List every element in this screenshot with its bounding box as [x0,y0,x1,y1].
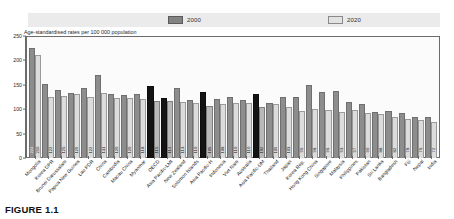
bar-value-label: 96 [326,148,330,153]
bar-group: 95 [292,36,305,158]
bar-2020: 131 [101,93,107,158]
x-tick-mark [167,156,168,159]
bar-2020: 113 [180,102,186,158]
bar-value-label: 210 [36,146,40,153]
bar-2020: 90 [365,113,371,158]
x-tick-mark [312,156,313,159]
bar-value-label: 90 [366,148,370,153]
legend-label-2000: 2000 [187,17,201,23]
x-tick-mark [326,156,327,159]
x-tick-mark [88,156,89,159]
bar-value-label: 110 [194,147,198,154]
bar-group: 72 [425,36,438,158]
bar-group: 90 [358,36,371,158]
bar-value-label: 110 [234,147,238,154]
bar-value-label: 82 [392,148,396,153]
bar-value-label: 125 [62,146,66,153]
bar-2020: 103 [286,107,292,158]
bar-2020: 93 [339,112,345,158]
bar-2020: 95 [299,111,305,158]
bar-value-label: 120 [128,146,132,153]
bar-2020: 88 [378,114,384,158]
bar-value-label: 129 [75,146,79,153]
x-tick-mark [405,156,406,159]
bar-value-label: 93 [340,148,344,153]
x-axis-labels: MongoliaKorea DPRBrunei DarussalamPapua … [26,159,440,201]
bar-group: 105 [200,36,213,158]
bar-2020: 210 [35,55,41,158]
chart-legend: 2000 2020 [28,13,440,27]
bar-value-label: 224 [29,146,33,153]
bar-2020: 118 [140,99,146,158]
x-tick-mark [378,156,379,159]
x-tick-mark [273,156,274,159]
x-tick-mark [365,156,366,159]
bar-group: 224210 [28,36,41,158]
bar-group: 103 [279,36,292,158]
bar-group: 93 [332,36,345,158]
bar-group: 113 [173,36,186,158]
bar-group: 131 [94,36,107,158]
bar-2020: 97 [352,110,358,158]
x-tick-label: Nepal [412,159,425,172]
bar-value-label: 102 [260,146,264,153]
y-axis-ticks: 050100150200250 [0,36,26,158]
bar-group: 76 [411,36,424,158]
x-tick-mark [392,156,393,159]
y-tick-label: 150 [13,82,22,88]
bar-2020: 108 [220,104,226,158]
x-tick-mark [114,156,115,159]
x-tick-mark [220,156,221,159]
bar-value-label: 109 [273,146,277,153]
bar-series-container: 2242101221251291221311201201181151141131… [26,36,440,158]
bar-group: 115 [147,36,160,158]
bar-value-label: 122 [88,146,92,153]
bar-value-label: 113 [181,147,185,154]
x-tick-mark [418,156,419,159]
legend-item-2000: 2000 [168,16,201,24]
x-tick-mark [127,156,128,159]
bar-group: 114 [160,36,173,158]
y-tick-label: 0 [19,155,22,161]
bar-2020: 114 [167,101,173,158]
x-tick-label: India [427,159,438,170]
x-tick-label: Asia Pacific-UM [238,159,266,188]
legend-item-2020: 2020 [328,16,361,24]
legend-swatch-2020 [328,16,343,24]
bar-value-label: 78 [406,148,410,153]
bar-value-label: 108 [221,146,225,153]
bar-group: 110 [187,36,200,158]
bar-2020: 96 [325,110,331,158]
bar-2020: 120 [114,98,120,158]
bar-value-label: 95 [300,148,304,153]
bar-2020: 122 [87,97,93,158]
bar-2020: 76 [418,120,424,158]
bar-group: 110 [240,36,253,158]
bar-2020: 102 [259,107,265,158]
bar-value-label: 115 [155,147,159,154]
figure-container: 2000 2020 Age-standardised rates per 100… [0,0,454,219]
bar-group: 108 [213,36,226,158]
bar-value-label: 97 [353,148,357,153]
bar-value-label: 110 [247,147,251,154]
bar-group: 120 [121,36,134,158]
y-axis-title: Age-standardised rates per 100 000 popul… [24,29,136,35]
x-tick-label: Fiji [404,159,412,167]
bar-group: 102 [253,36,266,158]
x-tick-mark [61,156,62,159]
bar-group: 82 [385,36,398,158]
bar-2020: 122 [48,97,54,158]
bar-2020: 98 [312,109,318,158]
y-tick-label: 250 [13,33,22,39]
bar-value-label: 131 [102,146,106,153]
bar-value-label: 114 [168,147,172,154]
x-tick-mark [154,156,155,159]
bar-value-label: 118 [141,147,145,154]
bar-2020: 115 [154,101,160,158]
x-tick-mark [299,156,300,159]
plot-area: 050100150200250 224210122125129122131120… [26,36,440,158]
bar-group: 109 [266,36,279,158]
bar-2020: 110 [193,103,199,158]
bar-group: 125 [54,36,67,158]
bar-2020: 82 [392,117,398,158]
